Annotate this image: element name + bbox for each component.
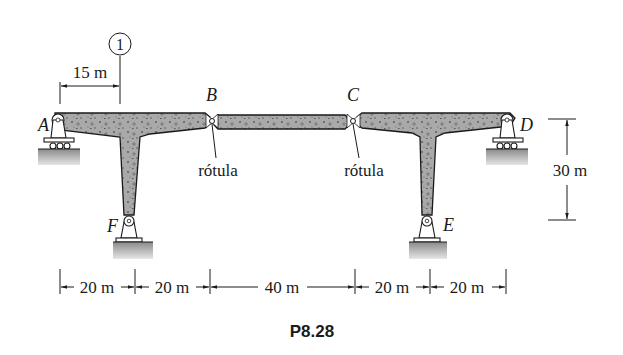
span-dimensions: 20 m 20 m 40 m 20 m 20 m (60, 269, 506, 297)
point-c-label: C (347, 85, 360, 105)
dimension-15m-label: 15 m (73, 63, 107, 82)
span-5-label: 20 m (450, 278, 484, 297)
point-a-label: A (37, 115, 50, 135)
middle-beam-bc (214, 115, 349, 129)
pin-support-f (113, 216, 153, 259)
section-marker-label: 1 (116, 36, 124, 53)
structure-diagram: 1 15 m rótula rótula (0, 0, 623, 355)
span-4-label: 20 m (375, 278, 409, 297)
pin-support-e (409, 216, 447, 259)
point-d-label: D (519, 115, 533, 135)
dimension-30m-label: 30 m (553, 161, 587, 180)
span-2-label: 20 m (155, 278, 189, 297)
hinge-b-label: rótula (198, 161, 238, 180)
hinge-c-label: rótula (344, 161, 384, 180)
span-3-label: 40 m (265, 278, 299, 297)
section-marker: 1 (109, 33, 131, 104)
point-f-label: F (106, 216, 119, 236)
figure-caption: P8.28 (290, 322, 334, 341)
span-1-label: 20 m (80, 278, 114, 297)
dimension-15m: 15 m (60, 63, 119, 104)
dimension-30m: 30 m (548, 119, 587, 220)
point-e-label: E (442, 215, 454, 235)
point-b-label: B (206, 85, 217, 105)
